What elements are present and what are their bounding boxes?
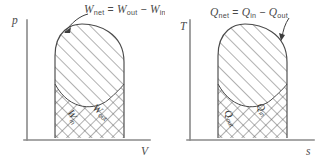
lower-crosshatched-region [164,0,329,167]
lower-crosshatched-region [0,0,165,167]
thermodynamic-cycle-figure: p V Wnet = Wout − Win Win Wout [0,0,329,167]
x-axis-label: s [306,145,311,157]
heat-diagram-panel: T s Qnet = Qin − Qout Qout Qin [164,0,329,167]
work-diagram-panel: p V Wnet = Wout − Win Win Wout [0,0,165,167]
y-axis-label: p [11,14,18,27]
